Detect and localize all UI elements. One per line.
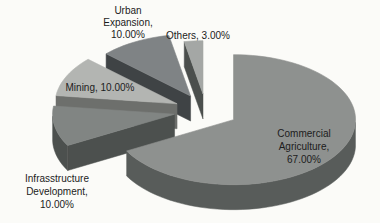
slice-label-line: Commercial — [252, 127, 356, 140]
slice-label-mining: Mining, 10.00% — [48, 82, 152, 94]
slice-label-commercial-agriculture: Commercial Agriculture, 67.00% — [252, 127, 356, 166]
slice-label-line: 67.00% — [252, 153, 356, 166]
slice-label-line: Expansion, — [70, 17, 186, 29]
slice-label-line: Others, 3.00% — [146, 30, 250, 42]
pie-chart-figure: Urban Expansion, 10.00% Others, 3.00% Mi… — [0, 0, 380, 223]
slice-label-line: Development, — [2, 185, 112, 198]
slice-label-line: Infrasstructure — [2, 172, 112, 185]
slice-label-line: 10.00% — [2, 198, 112, 211]
slice-label-others: Others, 3.00% — [146, 30, 250, 42]
slice-label-line: Agriculture, — [252, 140, 356, 153]
slice-label-line: Urban — [70, 5, 186, 17]
slice-label-infrastructure-development: Infrasstructure Development, 10.00% — [2, 172, 112, 211]
slice-label-line: Mining, 10.00% — [48, 82, 152, 94]
